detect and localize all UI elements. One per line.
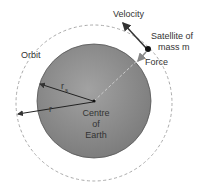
satellite-label-line1: Satellite of bbox=[151, 31, 194, 41]
centre-label-line2: of bbox=[92, 119, 100, 129]
rs-label: r bbox=[61, 81, 64, 91]
centre-dot bbox=[92, 99, 95, 102]
orbit-label: Orbit bbox=[21, 50, 41, 60]
force-label: Force bbox=[145, 57, 168, 67]
centre-label-line1: Centre bbox=[82, 108, 109, 118]
r-label: r bbox=[49, 104, 52, 114]
rs-subscript: s bbox=[65, 87, 68, 93]
satellite bbox=[145, 46, 151, 52]
velocity-arrow bbox=[123, 23, 147, 49]
orbit-diagram: Velocity Satellite of mass m Force Orbit… bbox=[0, 0, 211, 192]
satellite-label-line2: mass m bbox=[158, 42, 190, 52]
velocity-label: Velocity bbox=[113, 9, 145, 19]
centre-label-line3: Earth bbox=[85, 130, 107, 140]
